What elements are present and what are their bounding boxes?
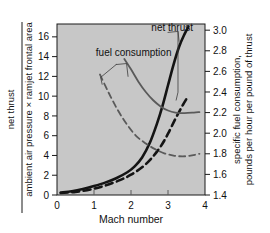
y-left-tick-label-7: 14 <box>38 51 50 62</box>
x-tick-label-3: 3 <box>165 200 171 211</box>
y-left-axis-label-numerator: net thrust <box>5 89 16 129</box>
y-left-tick-label-1: 2 <box>43 170 49 181</box>
y-right-tick-label-3: 2.0 <box>213 128 227 139</box>
y-left-tick-label-6: 12 <box>38 71 50 82</box>
y-left-tick-label-5: 10 <box>38 91 50 102</box>
y-left-tick-label-4: 8 <box>43 111 49 122</box>
y-right-tick-label-1: 1.6 <box>213 169 227 180</box>
x-axis-label: Mach number <box>99 213 164 225</box>
x-tick-label-2: 2 <box>128 200 134 211</box>
x-tick-label-4: 4 <box>202 200 208 211</box>
y-right-tick-label-2: 1.8 <box>213 148 227 159</box>
y-right-tick-label-7: 2.8 <box>213 45 227 56</box>
annotation-fuel-consumption: fuel consumption <box>96 47 172 58</box>
y-left-tick-label-0: 0 <box>43 190 49 201</box>
y-right-tick-label-5: 2.4 <box>213 87 227 98</box>
chart-figure: 02468101214161.41.61.82.02.22.42.62.83.0… <box>0 0 270 233</box>
y-left-tick-label-3: 6 <box>43 130 49 141</box>
y-right-axis-label-line1: specific fuel consumption, <box>231 55 242 164</box>
y-right-tick-label-6: 2.6 <box>213 66 227 77</box>
x-tick-label-0: 0 <box>54 200 60 211</box>
y-right-tick-label-4: 2.2 <box>213 107 227 118</box>
x-tick-label-1: 1 <box>91 200 97 211</box>
y-right-tick-label-8: 3.0 <box>213 25 227 36</box>
y-right-axis-label-line2: pounds per hour per pound of thrust <box>243 33 254 185</box>
y-left-axis-label-denominator: ambient air pressure × ramjet frontal ar… <box>23 22 34 197</box>
y-right-tick-label-0: 1.4 <box>213 190 227 201</box>
ramjet-performance-chart: 02468101214161.41.61.82.02.22.42.62.83.0… <box>0 0 270 233</box>
annotation-net-thrust: net thrust <box>151 22 193 33</box>
y-left-tick-label-2: 4 <box>43 150 49 161</box>
y-left-tick-label-8: 16 <box>38 31 50 42</box>
